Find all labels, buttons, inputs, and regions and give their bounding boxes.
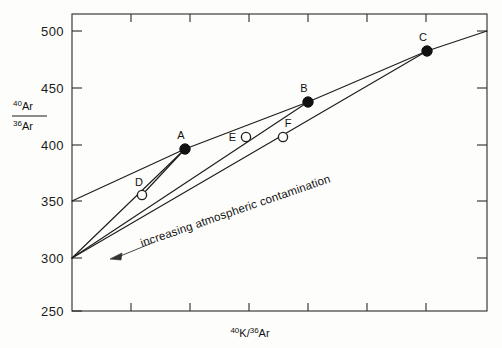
y-axis-title-numerator: 40Ar <box>13 99 33 112</box>
mixing-line-A <box>72 149 185 258</box>
data-point-label-C: C <box>419 31 427 43</box>
y-tick-label-350: 350 <box>41 194 64 209</box>
y-axis-ticks-left <box>72 31 82 311</box>
mixing-line-C <box>72 51 427 258</box>
y-axis-title-den-base: Ar <box>22 120 33 132</box>
y-tick-label-450: 450 <box>41 81 64 96</box>
data-point-label-B: B <box>300 82 307 94</box>
contamination-annotation-label: increasing atmospheric contamination <box>139 172 332 249</box>
arrow-head-icon <box>110 253 122 260</box>
x-axis-ticks-top <box>131 14 426 22</box>
y-axis-title-denominator: 36Ar <box>13 119 33 132</box>
data-point-C[interactable] <box>422 46 432 56</box>
data-point-A[interactable] <box>180 144 190 154</box>
data-point-label-F: F <box>285 117 292 129</box>
data-point-label-D: D <box>135 176 143 188</box>
data-point-E[interactable] <box>241 132 250 141</box>
y-axis-ticks-right <box>477 31 487 258</box>
y-axis-title-num-base: Ar <box>22 100 33 112</box>
chart-container: 500 450 400 350 300 250 40Ar 36Ar 40K/36… <box>0 0 502 348</box>
mixing-line-B <box>72 102 308 258</box>
data-point-label-A: A <box>177 129 185 141</box>
y-tick-label-250: 250 <box>41 304 64 319</box>
data-point-label-E: E <box>229 131 236 143</box>
y-tick-label-400: 400 <box>41 138 64 153</box>
data-point-B[interactable] <box>303 97 313 107</box>
x-axis-title: 40K/36Ar <box>230 326 270 339</box>
data-point-F[interactable] <box>278 132 287 141</box>
x-axis-title-base2: Ar <box>259 327 270 339</box>
x-axis-ticks-bottom <box>131 303 426 311</box>
y-tick-label-300: 300 <box>41 251 64 266</box>
plot-frame <box>72 14 487 311</box>
y-axis-title: 40Ar 36Ar <box>12 99 47 132</box>
isochron-plot: 500 450 400 350 300 250 40Ar 36Ar 40K/36… <box>0 0 502 348</box>
data-point-D[interactable] <box>137 190 146 199</box>
y-tick-label-500: 500 <box>41 24 64 39</box>
